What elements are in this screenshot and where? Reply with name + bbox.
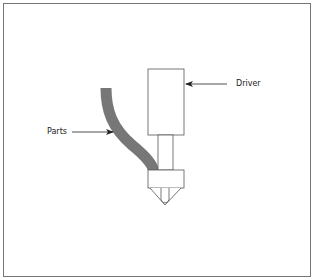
driver-box <box>148 69 184 135</box>
driver-diagram <box>0 0 315 279</box>
shaft <box>158 135 173 170</box>
nozzle-cone <box>150 188 181 205</box>
parts-feed-tube <box>106 88 153 170</box>
collar <box>148 170 184 188</box>
driver-label: Driver <box>236 80 261 88</box>
parts-label: Parts <box>47 128 67 136</box>
